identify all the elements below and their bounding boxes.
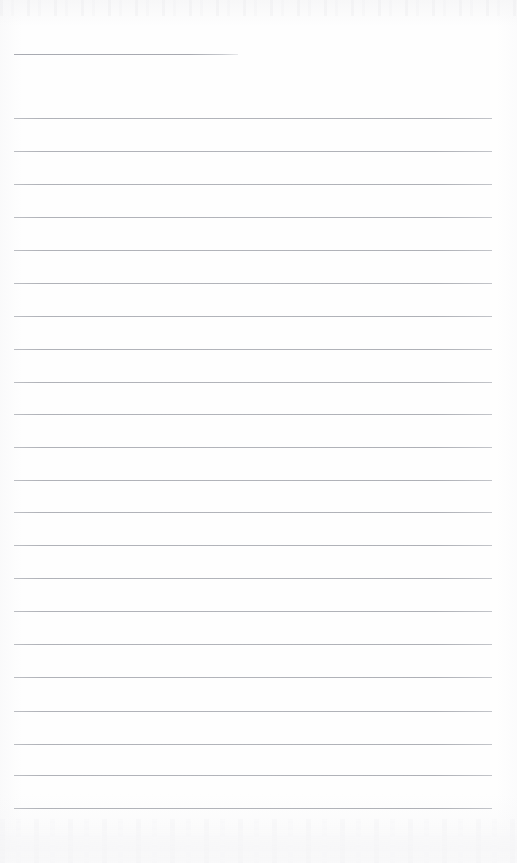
rule-line [14,512,492,513]
rule-line [14,250,492,251]
scan-noise-bottom-edge [0,819,517,863]
rule-line [14,677,492,678]
rule-line [14,545,492,546]
rule-line [14,151,492,152]
rule-line [14,644,492,645]
rule-line [14,283,492,284]
rule-line [14,217,492,218]
rule-line [14,775,492,776]
rule-line [14,316,492,317]
rule-line-partial [14,54,238,55]
scan-noise-top-edge [0,0,517,16]
rule-line [14,711,492,712]
rule-line [14,118,492,119]
rule-line [14,578,492,579]
rule-line [14,184,492,185]
paper-surface [0,0,517,863]
rule-line [14,349,492,350]
scanned-page [0,0,517,863]
rule-line [14,447,492,448]
rule-line [14,414,492,415]
rule-line [14,611,492,612]
rule-line [14,480,492,481]
rule-line [14,808,492,809]
rule-line [14,744,492,745]
rule-line [14,382,492,383]
